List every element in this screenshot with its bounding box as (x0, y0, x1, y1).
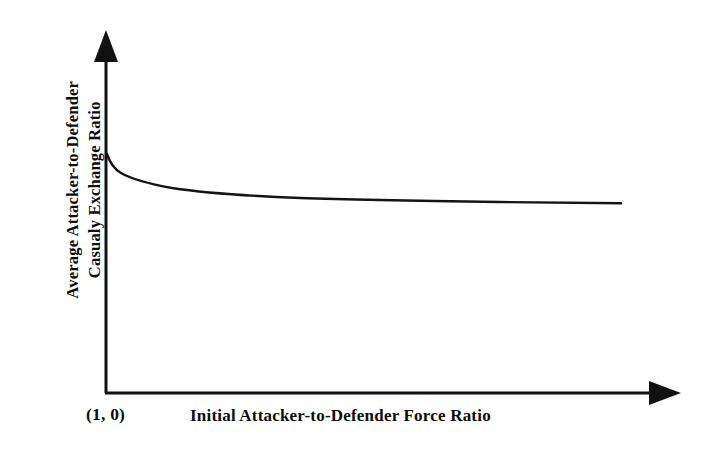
exchange-ratio-curve (107, 154, 621, 203)
origin-annotation-label: (1, 0) (86, 404, 125, 425)
y-axis-label-line-1: Average Attacker-to-Defender (62, 40, 84, 340)
chart-plot-area (0, 0, 723, 460)
y-axis-label-line-2: Casualy Exchange Ratio (84, 40, 106, 340)
figure-canvas: Average Attacker-to-Defender Casualy Exc… (0, 0, 723, 460)
x-axis-arrow-icon (649, 381, 681, 405)
x-axis-label: Initial Attacker-to-Defender Force Ratio (190, 406, 491, 426)
y-axis-label: Average Attacker-to-Defender Casualy Exc… (62, 40, 106, 340)
